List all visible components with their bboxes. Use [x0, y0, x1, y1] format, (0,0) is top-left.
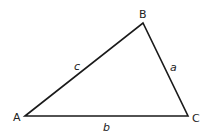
triangle-diagram: A B C c a b [0, 0, 211, 135]
vertex-label-c: C [192, 112, 200, 125]
vertex-label-b: B [139, 8, 147, 21]
side-label-a: a [170, 61, 177, 74]
vertex-label-a: A [13, 111, 21, 124]
side-label-b: b [103, 121, 110, 134]
triangle-abc [25, 23, 188, 116]
side-label-c: c [74, 60, 80, 73]
